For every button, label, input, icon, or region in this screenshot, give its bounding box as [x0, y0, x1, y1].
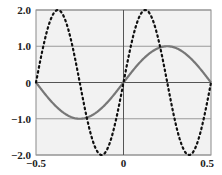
y-tick-label: 1.0: [17, 40, 31, 52]
y-axis-ticks: 2.01.00−1.0−2.0: [11, 4, 32, 161]
y-tick-label: −1.0: [11, 113, 32, 125]
x-axis-ticks: −0.500.5: [26, 157, 214, 169]
x-tick-label: 0.5: [200, 157, 214, 169]
x-tick-label: −0.5: [26, 157, 47, 169]
line-chart: 2.01.00−1.0−2.0 −0.500.5: [0, 0, 222, 175]
x-tick-label: 0: [121, 157, 127, 169]
y-tick-label: 2.0: [17, 4, 31, 16]
y-tick-label: 0: [26, 77, 32, 89]
